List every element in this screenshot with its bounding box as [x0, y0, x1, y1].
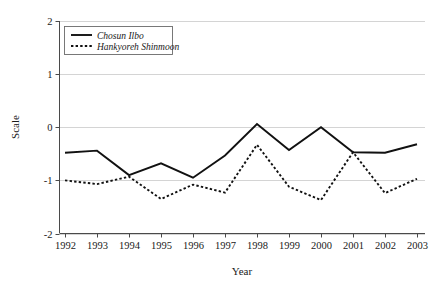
y-axis-ticks — [56, 22, 60, 235]
y-axis-title: Scale — [9, 115, 21, 139]
line-chart: 210-1-2 19921993199419951996199719981999… — [0, 0, 437, 290]
x-tick-label: 2001 — [343, 240, 364, 251]
x-tick-label: 1996 — [183, 240, 204, 251]
x-tick-label: 1998 — [247, 240, 268, 251]
y-axis-tick-labels: 210-1-2 — [44, 16, 53, 240]
y-tick-label: -1 — [44, 175, 53, 186]
x-axis-tick-labels: 1992199319941995199619971998199920002001… — [55, 240, 428, 251]
legend-label-chosun-ilbo: Chosun Ilbo — [97, 31, 144, 41]
y-tick-label: 2 — [47, 16, 52, 27]
x-tick-label: 2003 — [407, 240, 428, 251]
chart-figure: 210-1-2 19921993199419951996199719981999… — [0, 0, 437, 290]
x-tick-label: 2000 — [311, 240, 332, 251]
x-tick-label: 1995 — [151, 240, 172, 251]
y-tick-label: 1 — [47, 69, 52, 80]
x-axis-title: Year — [232, 265, 253, 277]
x-tick-label: 1994 — [119, 240, 141, 251]
data-series-group — [65, 124, 417, 200]
legend-label-hankyoreh-shinmoon: Hankyoreh Shinmoon — [96, 42, 179, 52]
y-tick-label: 0 — [47, 122, 52, 133]
x-tick-label: 1993 — [87, 240, 108, 251]
y-tick-label: -2 — [44, 229, 53, 240]
x-tick-label: 2002 — [375, 240, 396, 251]
chart-legend: Chosun Ilbo Hankyoreh Shinmoon — [65, 27, 180, 55]
x-tick-label: 1999 — [279, 240, 300, 251]
x-tick-label: 1992 — [55, 240, 76, 251]
x-tick-label: 1997 — [215, 240, 236, 251]
